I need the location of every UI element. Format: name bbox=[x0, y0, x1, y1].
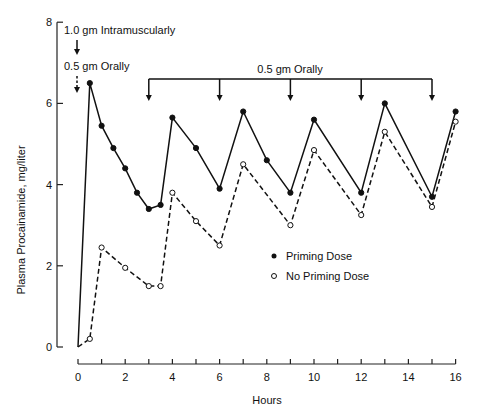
legend-priming-label: Priming Dose bbox=[286, 250, 352, 262]
y-tick-label: 6 bbox=[46, 97, 52, 109]
filled-data-point bbox=[241, 109, 246, 114]
oral-initial-label: 0.5 gm Orally bbox=[64, 60, 130, 72]
filled-data-point bbox=[217, 186, 222, 191]
y-axis: 02468 bbox=[46, 16, 63, 353]
filled-data-point bbox=[87, 81, 92, 86]
filled-data-point bbox=[264, 158, 269, 163]
filled-data-point bbox=[158, 202, 163, 207]
legend: Priming Dose No Priming Dose bbox=[272, 250, 370, 282]
open-data-point bbox=[453, 119, 458, 124]
filled-data-point bbox=[311, 117, 316, 122]
filled-data-point bbox=[359, 190, 364, 195]
open-data-point bbox=[217, 243, 222, 248]
oral-initial-arrow-icon-head bbox=[74, 87, 80, 93]
open-data-point bbox=[311, 147, 316, 152]
y-tick-label: 8 bbox=[46, 16, 52, 28]
x-tick-label: 8 bbox=[264, 371, 270, 383]
filled-data-point bbox=[382, 101, 387, 106]
y-tick-label: 4 bbox=[46, 179, 52, 191]
x-tick-label: 10 bbox=[308, 371, 320, 383]
legend-filled-circle-icon bbox=[272, 254, 277, 259]
oral-repeat-label: 0.5 gm Orally bbox=[257, 63, 323, 75]
legend-open-circle-icon bbox=[272, 274, 277, 279]
x-tick-label: 2 bbox=[122, 371, 128, 383]
open-data-point bbox=[146, 284, 151, 289]
open-data-point bbox=[87, 336, 92, 341]
filled-data-point bbox=[99, 123, 104, 128]
filled-data-point bbox=[134, 190, 139, 195]
oral-dose-arrow-icon-head bbox=[358, 95, 364, 101]
open-data-point bbox=[99, 245, 104, 250]
y-tick-label: 2 bbox=[46, 260, 52, 272]
oral-dose-arrow-icon-head bbox=[217, 95, 223, 101]
filled-data-point bbox=[193, 145, 198, 150]
y-tick-label: 0 bbox=[46, 341, 52, 353]
open-data-point bbox=[359, 212, 364, 217]
legend-no-priming-label: No Priming Dose bbox=[286, 270, 369, 282]
filled-data-point bbox=[453, 109, 458, 114]
im-dose-arrow-icon-head bbox=[74, 49, 80, 55]
oral-dose-arrow-icon-head bbox=[287, 95, 293, 101]
open-data-point bbox=[193, 219, 198, 224]
plot-area bbox=[78, 81, 458, 348]
dose-annotations: 1.0 gm Intramuscularly 0.5 gm Orally 0.5… bbox=[64, 24, 435, 101]
x-axis: 0246810121416 bbox=[75, 359, 462, 383]
open-data-point bbox=[170, 190, 175, 195]
x-tick-label: 0 bbox=[75, 371, 81, 383]
x-axis-label: Hours bbox=[252, 394, 282, 406]
filled-data-point bbox=[170, 115, 175, 120]
filled-data-point bbox=[146, 206, 151, 211]
series-line-priming bbox=[78, 83, 456, 347]
series-line-no-priming bbox=[78, 122, 456, 347]
x-tick-label: 16 bbox=[449, 371, 461, 383]
x-tick-label: 14 bbox=[402, 371, 414, 383]
open-data-point bbox=[241, 162, 246, 167]
filled-data-point bbox=[288, 190, 293, 195]
chart: 02468 0246810121416 Plasma Procainamide,… bbox=[0, 0, 481, 418]
open-data-point bbox=[429, 204, 434, 209]
x-tick-label: 4 bbox=[169, 371, 175, 383]
x-tick-label: 6 bbox=[217, 371, 223, 383]
im-dose-label: 1.0 gm Intramuscularly bbox=[64, 24, 176, 36]
oral-dose-arrow-icon-head bbox=[146, 95, 152, 101]
oral-dose-arrow-icon-head bbox=[429, 95, 435, 101]
x-tick-label: 12 bbox=[355, 371, 367, 383]
open-data-point bbox=[288, 223, 293, 228]
y-axis-label: Plasma Procainamide, mg/liter bbox=[15, 145, 27, 295]
open-data-point bbox=[123, 265, 128, 270]
open-data-point bbox=[158, 284, 163, 289]
filled-data-point bbox=[123, 166, 128, 171]
open-data-point bbox=[382, 129, 387, 134]
filled-data-point bbox=[111, 145, 116, 150]
